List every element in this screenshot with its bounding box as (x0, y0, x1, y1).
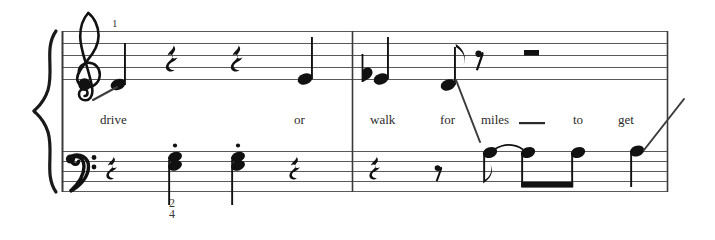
bass-note-tied-eighth (481, 145, 498, 183)
lyric-extender-miles (519, 122, 545, 124)
time-signature: 2 4 (165, 198, 179, 219)
drive-lead-line (93, 87, 117, 100)
bass-rest-quarter-1 (106, 157, 116, 180)
bass-clef-icon (66, 154, 97, 191)
beam (521, 182, 573, 188)
lyric-get: get (618, 112, 634, 128)
lyric-drive: drive (100, 112, 127, 128)
lyric-to: to (573, 112, 583, 128)
lyric-for: for (440, 112, 455, 128)
bass-tie (494, 145, 523, 150)
bass-rest-quarter-2 (289, 157, 299, 180)
treble-note-for-eighth (439, 44, 465, 93)
measure-number: 1 (112, 17, 118, 29)
staccato-dot (173, 143, 177, 147)
treble-note-or (296, 37, 314, 87)
piano-brace-icon (34, 31, 56, 192)
bass-rest-eighth (435, 165, 442, 181)
bass-chord-2 (230, 143, 247, 205)
for-miles-line (456, 80, 480, 142)
time-signature-denominator: 4 (165, 208, 179, 219)
treble-rest-half (524, 50, 539, 56)
lyric-walk: walk (370, 112, 395, 128)
sheet-music-page: 1 2 4 drive or walk for miles to get (0, 0, 715, 240)
lyric-miles: miles (481, 112, 509, 128)
treble-note-walk (372, 37, 390, 87)
bass-rest-quarter-3 (369, 157, 379, 180)
lyric-or: or (294, 112, 305, 128)
staccato-dot (236, 143, 240, 147)
get-rise-line (644, 99, 684, 150)
